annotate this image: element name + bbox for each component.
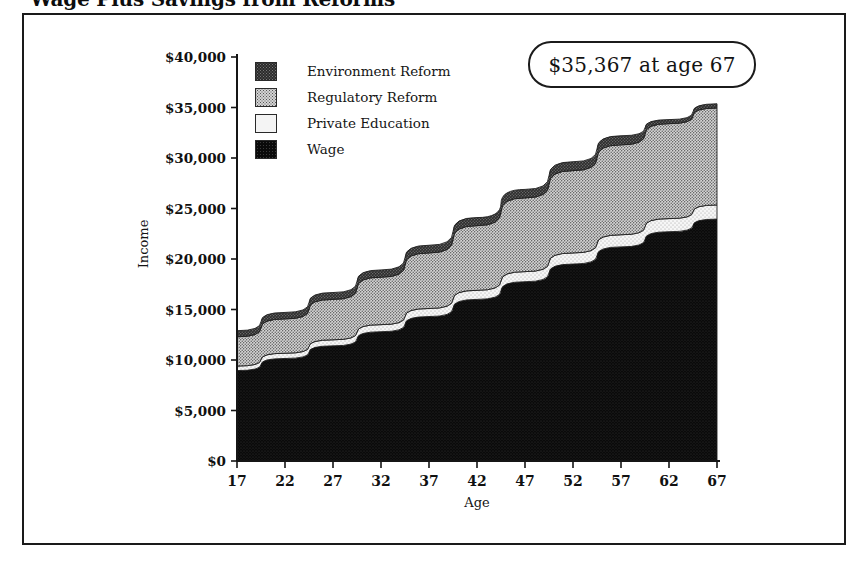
legend-item-wage: Wage <box>255 136 465 162</box>
legend-swatch-wage <box>255 140 277 159</box>
x-tick-label: 17 <box>227 473 246 489</box>
x-tick-label: 67 <box>707 473 726 489</box>
x-tick-label: 62 <box>659 473 678 489</box>
y-tick-label: $5,000 <box>174 403 226 419</box>
legend-label-environment-reform: Environment Reform <box>307 63 451 79</box>
legend-swatch-environment-reform <box>255 62 277 81</box>
y-tick-label: $20,000 <box>165 251 226 267</box>
x-tick-label: 42 <box>467 473 486 489</box>
legend-label-regulatory-reform: Regulatory Reform <box>307 89 437 105</box>
y-axis-title: Income <box>136 219 151 268</box>
y-tick-label: $35,000 <box>165 100 226 116</box>
y-tick-label: $10,000 <box>165 352 226 368</box>
x-tick-label: 57 <box>611 473 630 489</box>
y-tick-label: $25,000 <box>165 201 226 217</box>
legend-swatch-regulatory-reform <box>255 88 277 107</box>
y-tick-label: $40,000 <box>165 49 226 65</box>
annotation-text: $35,367 at age 67 <box>548 53 735 77</box>
x-tick-label: 47 <box>515 473 534 489</box>
x-tick-label: 32 <box>371 473 390 489</box>
y-tick-label: $30,000 <box>165 150 226 166</box>
chart-figure: Wage Plus Savings from Reforms <box>0 0 866 565</box>
x-tick-label: 22 <box>275 473 294 489</box>
legend-label-wage: Wage <box>307 141 344 157</box>
chart-legend: Environment Reform Regulatory Reform Pri… <box>255 58 465 162</box>
legend-swatch-private-education <box>255 114 277 133</box>
x-axis-title: Age <box>463 495 490 510</box>
x-tick-label: 52 <box>563 473 582 489</box>
x-tick-label: 37 <box>419 473 438 489</box>
legend-item-regulatory-reform: Regulatory Reform <box>255 84 465 110</box>
legend-label-private-education: Private Education <box>307 115 430 131</box>
x-tick-label: 27 <box>323 473 342 489</box>
legend-item-environment-reform: Environment Reform <box>255 58 465 84</box>
y-tick-label: $15,000 <box>165 302 226 318</box>
annotation-callout: $35,367 at age 67 <box>528 41 756 88</box>
y-tick-label: $0 <box>207 453 226 469</box>
legend-item-private-education: Private Education <box>255 110 465 136</box>
